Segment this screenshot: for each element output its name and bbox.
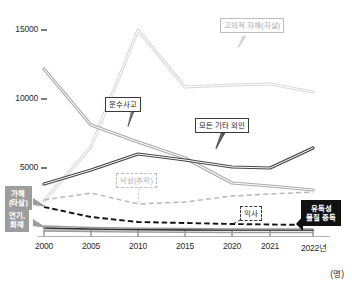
callout-homicide-line1: 가해 (11, 189, 25, 198)
x-tick-label-2000: 2000 (22, 241, 66, 251)
y-tick-label-5000: 5000 (0, 162, 38, 172)
callout-poisoning-line2: 물질 중독 (306, 213, 336, 222)
callout-falls: 낙상(추락) (116, 173, 157, 188)
callout-homicide: 가해 (타살) (5, 186, 32, 210)
callout-poisoning: 유독성 물질 중독 (301, 200, 341, 226)
x-tick-label-2015: 2015 (163, 241, 207, 251)
x-tick-label-2005: 2005 (69, 241, 113, 251)
callout-fire-line1: 연기, (9, 211, 25, 220)
series-line-drowning (44, 207, 313, 225)
x-tick-label-2010: 2010 (116, 241, 160, 251)
callout-homicide-line2: (타살) (9, 198, 28, 207)
callout-drowning: 익사 (240, 206, 262, 221)
y-tick-label-10000: 10000 (0, 93, 38, 103)
callout-poisoning-line1: 유독성 (311, 204, 332, 213)
y-tick-label-15000: 15000 (0, 24, 38, 34)
callout-suicide: 고의적 자해(자살) (220, 18, 284, 33)
y-axis-ticks (41, 30, 47, 168)
series-line-falls (44, 192, 313, 204)
callout-other-external: 모든 기타 외인 (195, 118, 249, 133)
x-tick-label-2022: 2022년 (290, 241, 338, 253)
unit-label: (명) (330, 267, 344, 279)
x-tick-label-2021: 2021 (248, 241, 292, 251)
callout-transport: 운수사고 (105, 97, 141, 112)
chart-container: 15000 10000 5000 2000 2005 2010 2015 202… (0, 0, 352, 285)
callout-fire: 연기, 화재 (5, 208, 29, 232)
series-line-fire (44, 231, 313, 233)
callout-fire-line2: 화재 (10, 220, 24, 229)
